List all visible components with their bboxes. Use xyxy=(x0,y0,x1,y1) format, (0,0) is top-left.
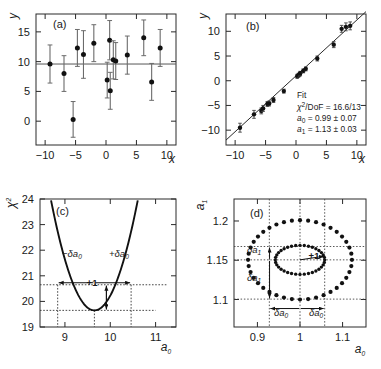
chi2-dof-text: /DoF = 16.6/13 xyxy=(305,102,361,112)
contour-point xyxy=(340,281,344,285)
y-tick-label: −5 xyxy=(207,99,220,111)
panel-a-ylabel: y xyxy=(6,12,20,20)
y-tick-label: 20 xyxy=(22,295,34,307)
data-point xyxy=(108,88,113,93)
contour-point xyxy=(344,240,348,244)
x-tick-label: 0 xyxy=(293,149,299,161)
annot-delta-a0-right-symbol: δa xyxy=(309,307,320,318)
data-point xyxy=(149,79,154,84)
x-tick-label: 0.9 xyxy=(250,331,265,343)
panel-b: −10−50510−10−50510 (b) x y Fit χ2/DoF = … xyxy=(190,0,381,185)
panel-a-plot: −10−50510051015 (a) x y xyxy=(0,0,190,185)
data-point xyxy=(105,78,110,83)
contour-point xyxy=(261,230,265,234)
contour-point xyxy=(298,244,301,247)
contour-point xyxy=(274,222,278,226)
annot-delta-a1-lower-subscript: 1 xyxy=(258,277,262,284)
data-point xyxy=(344,25,348,29)
contour-point xyxy=(350,258,354,262)
contour-point xyxy=(328,290,332,294)
panel-d-label: (d) xyxy=(250,207,263,219)
fit-title: Fit xyxy=(297,90,307,100)
x-tick-label: 1 xyxy=(297,331,303,343)
contour-point xyxy=(335,286,339,290)
panel-c-xlabel: a0 xyxy=(161,340,172,355)
contour-point xyxy=(294,244,297,247)
x-tick-label: 0 xyxy=(103,149,109,161)
panel-d-ylabel-subscript: 1 xyxy=(201,199,208,203)
contour-point xyxy=(298,273,301,276)
annot-delta-a0-right-subscript: 0 xyxy=(320,312,324,319)
x-tick-label: −10 xyxy=(226,149,245,161)
y-tick-label: 1.2 xyxy=(213,215,228,227)
contour-point xyxy=(261,286,265,290)
panel-b-fit-annotation: Fit χ2/DoF = 16.6/13 a0 = 0.99 ± 0.07 a1… xyxy=(296,90,361,135)
contour-point xyxy=(311,246,314,249)
panel-a-label: (a) xyxy=(53,18,66,30)
contour-point xyxy=(282,295,286,299)
y-tick-label: 10 xyxy=(18,56,30,68)
panel-b-label: (b) xyxy=(246,20,259,32)
data-point xyxy=(71,117,76,122)
data-point xyxy=(81,52,86,57)
data-point xyxy=(62,71,67,76)
contour-point xyxy=(282,269,285,272)
a0-value-text: = 0.99 ± 0.07 xyxy=(305,113,357,123)
panel-a-xlabel: x xyxy=(168,152,176,166)
panel-d-xlabel: a0 xyxy=(355,342,366,357)
x-tick-label: −5 xyxy=(259,149,272,161)
data-point xyxy=(315,56,319,60)
data-point xyxy=(261,106,265,110)
y-tick-label: 0 xyxy=(214,75,220,87)
y-tick-label: 21 xyxy=(22,270,34,282)
annot-delta-a1-lower-symbol: δa xyxy=(247,272,258,283)
panel-c-ylabel-exponent: 2 xyxy=(5,198,12,203)
data-point xyxy=(107,38,112,43)
y-tick-label: 5 xyxy=(24,85,30,97)
annot-delta-a1-upper-symbol: δa xyxy=(247,244,258,255)
annot-delta-a0-left-symbol: δa xyxy=(274,307,285,318)
annot-delta-a1-lower: δa1 xyxy=(247,272,262,284)
contour-point xyxy=(347,246,351,250)
contour-point xyxy=(323,261,326,264)
panel-b-xlabel: x xyxy=(358,152,366,166)
y-tick-label: 22 xyxy=(22,244,34,256)
contour-point xyxy=(303,244,306,247)
data-point xyxy=(304,67,308,71)
figure-container: −10−50510051015 (a) x y −10−50510−10−505… xyxy=(0,0,381,369)
data-point xyxy=(158,45,163,50)
data-point xyxy=(113,59,118,64)
panel-c-ylabel: χ2 xyxy=(4,198,18,210)
y-tick-label: 15 xyxy=(18,26,30,38)
panel-b-plot: −10−50510−10−50510 (b) x y Fit χ2/DoF = … xyxy=(190,0,381,185)
contour-point xyxy=(267,226,271,230)
panel-a-tick-labels: −10−50510051015 xyxy=(18,26,173,161)
annot-minus-delta-a0-symbol: −δa xyxy=(62,248,78,259)
contour-point xyxy=(306,297,310,301)
panel-d-ylabel: a1 xyxy=(193,199,208,210)
contour-point xyxy=(279,268,282,271)
contour-point xyxy=(321,293,325,297)
contour-point xyxy=(298,218,302,222)
contour-point xyxy=(314,220,318,224)
data-point xyxy=(271,98,275,102)
contour-point xyxy=(247,264,251,268)
contour-point xyxy=(344,276,348,280)
contour-point xyxy=(286,271,289,274)
annot-minus-delta-a0: −δa0 xyxy=(62,248,82,260)
data-point xyxy=(252,112,256,116)
contour-point xyxy=(294,272,297,275)
contour-point xyxy=(246,258,250,262)
y-tick-label: 19 xyxy=(22,321,34,333)
y-tick-label: −10 xyxy=(201,124,220,136)
y-tick-label: 1.1 xyxy=(213,294,228,306)
y-tick-label: 1.15 xyxy=(207,254,228,266)
annot-delta-a1-upper-subscript: 1 xyxy=(258,249,262,256)
y-tick-label: 5 xyxy=(214,50,220,62)
panel-c-frame xyxy=(40,199,176,327)
data-point xyxy=(75,45,80,50)
annot-delta-a0-left-subscript: 0 xyxy=(285,312,289,319)
data-point xyxy=(238,125,242,129)
data-point xyxy=(339,27,343,31)
x-tick-label: 5 xyxy=(133,149,139,161)
